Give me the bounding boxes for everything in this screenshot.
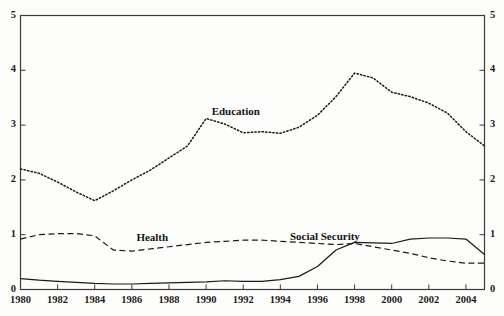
y-tick-left-3: 3 [0,118,16,129]
chart-figure: 543210 543210 19801982198419861988199019… [0,0,504,316]
y-tick-left-1: 1 [0,228,16,239]
x-tick-1984: 1984 [75,294,115,305]
y-tick-left-0: 0 [0,283,16,294]
y-tick-right-3: 3 [490,118,504,129]
x-tick-1982: 1982 [38,294,78,305]
plot-area [0,0,504,316]
x-tick-1998: 1998 [335,294,375,305]
y-tick-right-4: 4 [490,63,504,74]
x-tick-2004: 2004 [446,294,486,305]
y-tick-left-4: 4 [0,63,16,74]
series-label-education: Education [212,105,260,117]
axis-ticks [21,16,485,290]
x-tick-2000: 2000 [372,294,412,305]
x-tick-1988: 1988 [149,294,189,305]
x-tick-1990: 1990 [186,294,226,305]
series-label-health: Health [136,231,168,243]
y-tick-right-0: 0 [490,283,504,294]
y-tick-left-5: 5 [0,9,16,20]
x-tick-1980: 1980 [1,294,41,305]
x-tick-1996: 1996 [297,294,337,305]
x-tick-2002: 2002 [409,294,449,305]
y-tick-right-1: 1 [490,228,504,239]
plot-frame [21,16,485,290]
y-tick-right-2: 2 [490,173,504,184]
x-tick-1986: 1986 [112,294,152,305]
series-label-social-security: Social Security [290,230,360,242]
y-tick-right-5: 5 [490,9,504,20]
y-tick-left-2: 2 [0,173,16,184]
x-tick-1992: 1992 [223,294,263,305]
x-tick-1994: 1994 [260,294,300,305]
